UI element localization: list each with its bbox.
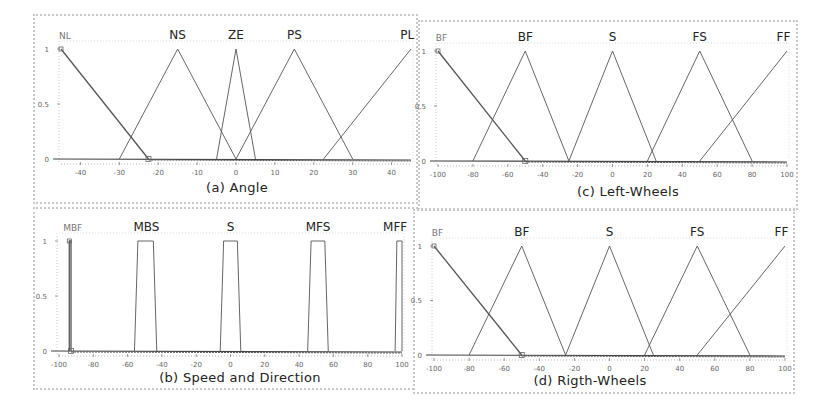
membership-function-bf [469,246,566,355]
membership-function-ff [700,51,787,161]
x-tick-label: 80 [745,365,754,373]
caption-speed-direction: (b) Speed and Direction [159,370,321,385]
y-tick-label: 0 [43,348,47,356]
x-tick-label: -60 [502,171,513,179]
x-tick-label: 60 [329,361,338,369]
caption-angle: (a) Angle [206,180,268,195]
y-tick-label: 1 [418,243,422,251]
membership-function-ps [236,49,353,159]
set-label-s: S [227,220,235,234]
membership-function-mfs [308,241,329,351]
set-label-mfs: MFS [306,220,331,234]
y-tick-label: 1 [43,238,47,246]
right-wheels-plot: 00.51-100-80-60-40-20020406080100BFBFSFS… [415,211,797,396]
set-label-ps: PS [287,28,302,42]
x-tick-label: -20 [572,171,583,179]
x-tick-label: -80 [88,361,99,369]
x-tick-label: 100 [778,365,791,373]
membership-function-s [566,246,654,355]
set-label-ff: FF [775,225,789,239]
x-tick-label: 100 [395,361,408,369]
membership-function-bf [438,51,525,161]
membership-function-fs [645,246,750,355]
set-label-pl: PL [400,28,414,42]
set-label-fs: FS [693,30,707,44]
x-tick-label: -30 [114,169,125,177]
membership-function-ze [217,49,256,159]
membership-function-pl [324,49,412,159]
x-tick-label: -100 [430,171,446,179]
caption-left-wheels: (c) Left-Wheels [577,184,679,199]
x-tick-label: 80 [363,361,372,369]
x-tick-label: 0 [234,169,238,177]
membership-function-s [220,241,241,351]
x-tick-label: -10 [191,169,202,177]
x-axis-baseline [51,351,402,352]
x-tick-label: -80 [463,365,474,373]
membership-function-mff [395,241,402,351]
membership-function-mbf [69,241,71,351]
set-label-bf: BF [432,228,443,238]
x-tick-label: -40 [534,365,545,373]
membership-function-fs [647,51,752,161]
x-tick-label: 20 [309,169,318,177]
x-tick-label: 60 [713,171,722,179]
x-tick-label: 0 [610,171,614,179]
x-tick-label: 20 [260,361,269,369]
y-tick-label: 0.5 [415,103,426,111]
x-tick-label: -20 [153,169,164,177]
x-tick-label: 40 [387,169,396,177]
membership-function-s [569,51,656,161]
y-tick-label: 0 [418,352,422,360]
y-tick-label: 0.5 [411,297,422,305]
y-tick-label: 1 [422,48,426,56]
x-tick-label: 20 [640,365,649,373]
panel-speed-direction: 00.51-100-80-60-40-20020406080100MBFMBSS… [33,207,418,390]
set-label-fs: FS [690,225,704,239]
y-tick-label: 0 [422,158,426,166]
panel-right-wheels: 00.51-100-80-60-40-20020406080100BFBFSFS… [413,209,795,394]
set-label-ff: FF [777,30,791,44]
set-label-ns: NS [169,28,186,42]
y-tick-label: 0 [45,156,49,164]
set-label-ze: ZE [228,28,244,42]
x-tick-label: 0 [228,361,232,369]
x-tick-label: 40 [295,361,304,369]
x-tick-label: -80 [467,171,478,179]
y-tick-label: 0.5 [36,293,47,301]
x-tick-label: 40 [678,171,687,179]
x-tick-label: -100 [51,361,67,369]
x-tick-label: -20 [190,361,201,369]
set-label-nl: NL [59,31,71,41]
membership-function-bf [473,51,569,161]
x-tick-label: -60 [498,365,509,373]
membership-function-bf [434,246,522,355]
set-label-mbs: MBS [133,220,159,234]
set-label-mbf: MBF [63,223,82,233]
x-tick-label: 30 [348,169,357,177]
caption-right-wheels: (d) Rigth-Wheels [533,373,646,388]
x-tick-label: 20 [643,171,652,179]
speed-direction-plot: 00.51-100-80-60-40-20020406080100MBFMBSS… [35,209,420,392]
x-tick-label: -40 [537,171,548,179]
x-tick-label: -100 [426,365,442,373]
x-tick-label: 40 [675,365,684,373]
x-axis-baseline [53,159,411,160]
y-tick-label: 1 [45,46,49,54]
set-label-bf: BF [436,33,447,43]
x-tick-label: 60 [710,365,719,373]
set-label-s: S [606,225,614,239]
x-axis-baseline [426,355,785,356]
set-label-s: S [609,30,617,44]
x-tick-label: 80 [748,171,757,179]
x-tick-label: 0 [607,365,611,373]
set-label-bf: BF [514,225,529,239]
angle-plot: 00.51-40-30-20-10010203040NLNSZEPSPL [35,16,420,206]
panel-left-wheels: 00.51-100-80-60-40-20020406080100BFBFSFS… [418,20,798,210]
membership-function-ns [119,49,236,159]
membership-function-nl [61,49,149,159]
x-tick-label: -20 [569,365,580,373]
x-tick-label: 10 [270,169,279,177]
x-tick-label: -40 [75,169,86,177]
panel-angle: 00.51-40-30-20-10010203040NLNSZEPSPL (a)… [33,14,418,204]
